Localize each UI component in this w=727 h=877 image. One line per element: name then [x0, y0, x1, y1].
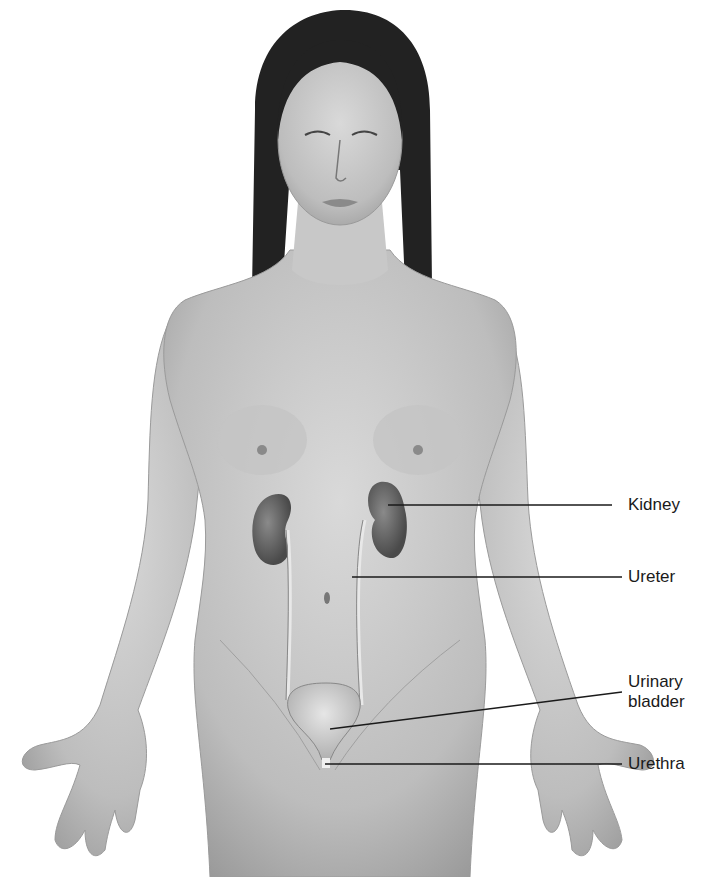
label-kidney: Kidney	[628, 495, 680, 515]
label-urinary-bladder-line1: Urinary	[628, 672, 685, 692]
label-urinary-bladder-line2: bladder	[628, 692, 685, 712]
navel	[324, 592, 330, 604]
torso	[164, 250, 516, 877]
left-breast	[217, 405, 307, 475]
urethra	[322, 758, 330, 768]
label-urethra: Urethra	[628, 754, 685, 774]
right-breast	[373, 405, 463, 475]
anatomy-figure: Kidney Ureter Urinary bladder Urethra	[0, 0, 727, 877]
label-ureter: Ureter	[628, 567, 675, 587]
label-urinary-bladder: Urinary bladder	[628, 672, 685, 712]
body-illustration	[0, 0, 727, 877]
